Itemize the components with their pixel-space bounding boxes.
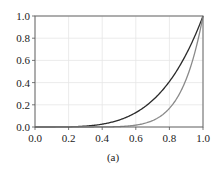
figure-caption: (a) [107, 151, 120, 164]
x-tick-label: 0.0 [28, 132, 42, 144]
axes [35, 16, 203, 127]
x-axis-ticks: 0.00.20.40.60.81.0 [28, 127, 210, 144]
y-tick-label: 0.0 [16, 121, 30, 133]
y-axis-ticks: 0.00.20.40.60.81.0 [16, 10, 35, 133]
y-tick-label: 1.0 [16, 10, 30, 22]
x-tick-label: 0.4 [95, 132, 109, 144]
grid-lines [35, 16, 203, 127]
y-tick-label: 0.2 [16, 99, 30, 111]
x-tick-label: 1.0 [196, 132, 210, 144]
y-tick-label: 0.4 [16, 77, 30, 89]
series-line [35, 16, 203, 127]
x-tick-label: 0.6 [129, 132, 143, 144]
y-tick-label: 0.6 [16, 54, 30, 66]
line-chart: 0.00.20.40.60.81.0 0.00.20.40.60.81.0 (a… [0, 0, 219, 173]
series-line [35, 16, 203, 127]
y-tick-label: 0.8 [16, 32, 30, 44]
plot-curves [35, 16, 203, 127]
x-tick-label: 0.8 [163, 132, 177, 144]
x-tick-label: 0.2 [62, 132, 76, 144]
